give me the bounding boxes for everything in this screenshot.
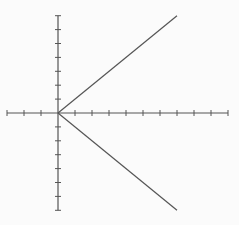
axes (7, 16, 228, 211)
line-chart (0, 0, 239, 225)
lower-branch-line (58, 113, 177, 210)
chart-plot-area (0, 0, 239, 225)
upper-branch-line (58, 16, 177, 113)
